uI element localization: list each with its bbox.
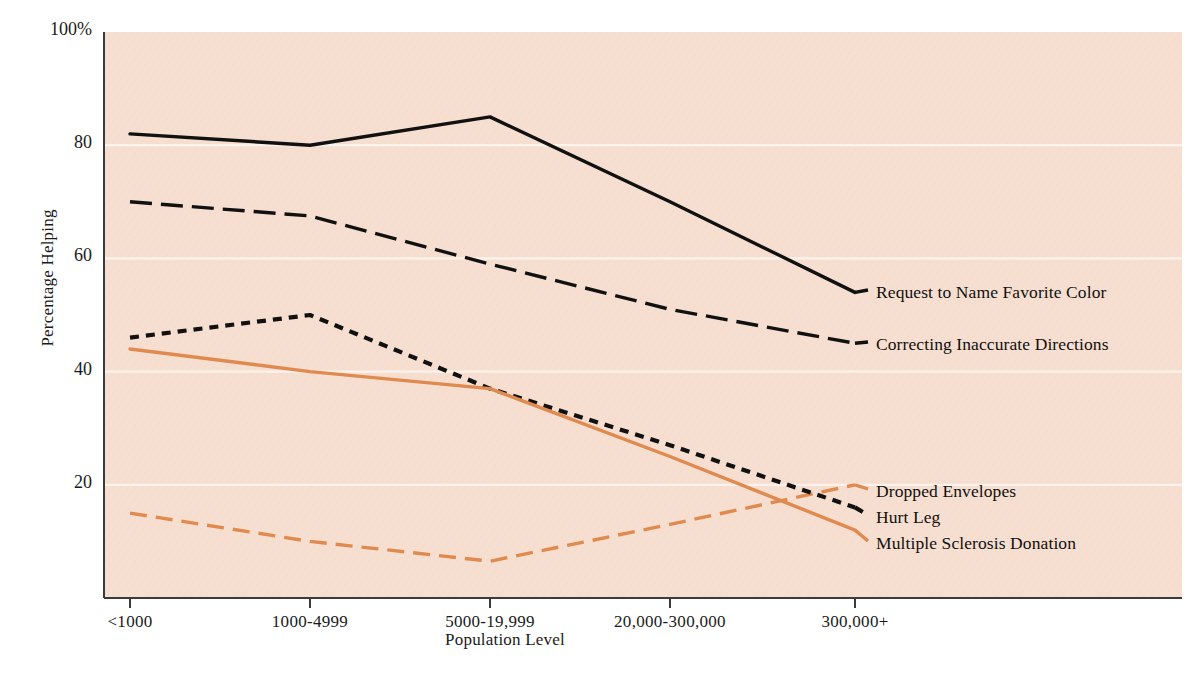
x-tick-label: 20,000-300,000 <box>614 612 726 632</box>
series-annotation-4: Multiple Sclerosis Donation <box>876 533 1076 554</box>
y-tick-label: 40 <box>74 359 92 380</box>
y-axis-ticks: 100%80604020 <box>0 0 104 676</box>
x-axis-title: Population Level <box>0 630 1010 650</box>
y-tick-label: 100% <box>50 19 92 40</box>
plot-texture <box>104 32 1182 598</box>
chart-figure: Percentage Helping 100%80604020 <1000100… <box>0 0 1188 676</box>
x-tick-label: 5000-19,999 <box>445 612 535 632</box>
y-tick-label: 20 <box>74 472 92 493</box>
x-tick-label: 300,000+ <box>821 612 888 632</box>
series-annotation-0: Request to Name Favorite Color <box>876 282 1106 303</box>
x-tick-label: 1000-4999 <box>272 612 348 632</box>
y-tick-label: 80 <box>74 132 92 153</box>
series-leader-0 <box>855 290 868 292</box>
series-annotation-1: Correcting Inaccurate Directions <box>876 334 1109 355</box>
series-annotation-2: Dropped Envelopes <box>876 481 1016 502</box>
x-tick-label: <1000 <box>107 612 152 632</box>
y-tick-label: 60 <box>74 245 92 266</box>
series-annotation-3: Hurt Leg <box>876 507 940 528</box>
series-leader-1 <box>855 342 868 343</box>
x-axis-ticks: <10001000-49995000-19,99920,000-300,0003… <box>0 598 1188 632</box>
